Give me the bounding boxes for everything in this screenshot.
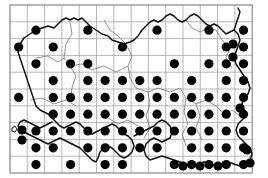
coastline-layer: [0, 0, 268, 178]
coastline-outline: [12, 8, 252, 166]
distribution-map-figure: [0, 0, 268, 178]
